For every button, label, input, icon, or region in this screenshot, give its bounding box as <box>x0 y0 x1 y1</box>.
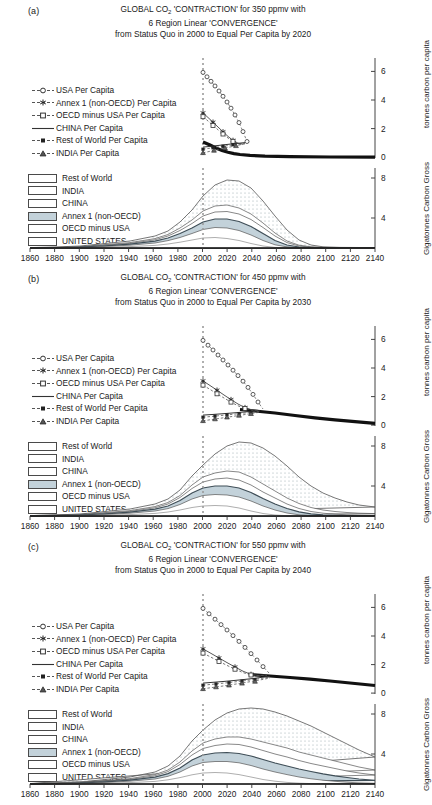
panel-a-gross-axis-title: Gigatonnes Carbon Gross <box>422 162 431 255</box>
gross-subplot-a: 8 4 <box>30 168 386 252</box>
svg-text:8: 8 <box>381 709 386 719</box>
panel-a-plot: 6 4 2 0 <box>0 0 432 268</box>
xtick: 1980 <box>169 521 187 531</box>
xtick: 2020 <box>218 253 236 263</box>
xtick: 2000 <box>193 521 211 531</box>
xtick: 2080 <box>292 253 310 263</box>
xtick: 2060 <box>267 253 285 263</box>
xtick: 1880 <box>45 253 63 263</box>
panel-b-gross-axis-title: Gigatonnes Carbon Gross <box>422 430 431 523</box>
contraction-convergence-figure: (a) GLOBAL CO2 'CONTRACTION' for 350 ppm… <box>0 0 432 805</box>
panel-b-plot: 6 4 2 0 <box>0 268 432 536</box>
xtick: 1980 <box>169 789 187 799</box>
svg-text:0: 0 <box>381 420 386 430</box>
xtick: 2140 <box>366 521 384 531</box>
xtick: 2100 <box>316 521 334 531</box>
xtick: 1920 <box>95 521 113 531</box>
xtick: 2020 <box>218 521 236 531</box>
panel-b-percapita-axis-title: tonnes carbon per capita <box>422 308 431 396</box>
xtick: 2040 <box>243 789 261 799</box>
xtick: 1920 <box>95 253 113 263</box>
xtick: 2040 <box>243 253 261 263</box>
percapita-subplot-b: 6 4 2 0 <box>201 326 386 430</box>
panel-c-plot: 6 4 2 0 <box>0 536 432 805</box>
svg-text:8: 8 <box>381 441 386 451</box>
svg-text:4: 4 <box>381 481 386 491</box>
panel-a-percapita-axis-title: tonnes carbon per capita <box>422 40 431 128</box>
panel-c-gross-axis-title: Gigatonnes Carbon Gross <box>422 698 431 791</box>
xtick: 2020 <box>218 789 236 799</box>
svg-text:4: 4 <box>381 95 386 105</box>
xtick: 2060 <box>267 521 285 531</box>
xtick: 1940 <box>119 521 137 531</box>
xtick: 2140 <box>366 253 384 263</box>
xtick: 1900 <box>70 521 88 531</box>
xtick: 2120 <box>341 521 359 531</box>
svg-text:0: 0 <box>381 688 386 698</box>
xtick: 2000 <box>193 789 211 799</box>
svg-text:8: 8 <box>381 173 386 183</box>
xtick: 2100 <box>316 253 334 263</box>
xtick: 2100 <box>316 789 334 799</box>
xtick: 1900 <box>70 253 88 263</box>
gross-subplot-c: 8 4 <box>30 704 386 788</box>
svg-text:4: 4 <box>381 213 386 223</box>
xtick: 1920 <box>95 789 113 799</box>
xtick: 1940 <box>119 789 137 799</box>
panel-c: (c) GLOBAL CO2 'CONTRACTION' for 550 ppm… <box>0 536 432 805</box>
svg-text:4: 4 <box>381 363 386 373</box>
xtick: 1880 <box>45 789 63 799</box>
svg-text:2: 2 <box>381 660 386 670</box>
svg-text:4: 4 <box>381 749 386 759</box>
svg-text:2: 2 <box>381 392 386 402</box>
xtick: 1960 <box>144 521 162 531</box>
svg-text:6: 6 <box>381 334 386 344</box>
svg-text:6: 6 <box>381 66 386 76</box>
xtick: 2080 <box>292 521 310 531</box>
percapita-subplot-c: 6 4 2 0 <box>201 594 386 698</box>
panel-b: (b) GLOBAL CO2 'CONTRACTION' for 450 ppm… <box>0 268 432 536</box>
xtick: 2040 <box>243 521 261 531</box>
xtick: 1960 <box>144 789 162 799</box>
xtick: 2000 <box>193 253 211 263</box>
xtick: 2120 <box>341 253 359 263</box>
svg-text:0: 0 <box>381 152 386 162</box>
xtick: 1900 <box>70 789 88 799</box>
xtick: 2080 <box>292 789 310 799</box>
xtick: 2140 <box>366 789 384 799</box>
xtick: 1980 <box>169 253 187 263</box>
xtick: 1960 <box>144 253 162 263</box>
xtick: 1860 <box>21 789 39 799</box>
xtick: 2060 <box>267 789 285 799</box>
xtick: 1860 <box>21 253 39 263</box>
svg-text:2: 2 <box>381 124 386 134</box>
svg-text:4: 4 <box>381 631 386 641</box>
percapita-subplot-a: 6 4 2 0 <box>201 58 386 162</box>
panel-c-percapita-axis-title: tonnes carbon per capita <box>422 576 431 664</box>
xtick: 2120 <box>341 789 359 799</box>
xtick: 1940 <box>119 253 137 263</box>
panel-a: (a) GLOBAL CO2 'CONTRACTION' for 350 ppm… <box>0 0 432 268</box>
svg-text:6: 6 <box>381 602 386 612</box>
xtick: 1880 <box>45 521 63 531</box>
xtick: 1860 <box>21 521 39 531</box>
gross-subplot-b: 8 4 <box>30 436 386 520</box>
